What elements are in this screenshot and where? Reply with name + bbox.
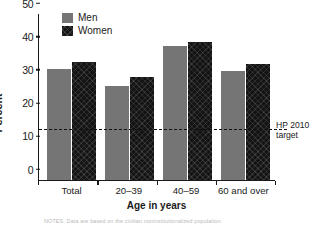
x-axis-tick-mark (97, 181, 98, 185)
y-axis-tick: 0 (28, 164, 39, 175)
x-axis-labels: Total20–3940–5960 and over (38, 186, 275, 196)
hp-2010-target-label-line2: target (276, 130, 309, 141)
x-axis-tick-mark (157, 181, 158, 185)
y-axis-tick: 50 (22, 0, 39, 9)
y-axis-tick: 20 (22, 98, 39, 109)
x-axis-label-2: 40–59 (158, 186, 215, 196)
bar-group (163, 14, 212, 180)
y-axis-tick-label: 20 (22, 98, 35, 109)
hp-2010-target-line (39, 129, 287, 130)
legend-item-women[interactable]: Women (62, 26, 112, 36)
chart-legend: MenWomen (62, 13, 112, 36)
x-axis-label-0: Total (43, 186, 100, 196)
x-axis-tick-mark (275, 181, 276, 185)
bar-men-2[interactable] (163, 46, 187, 180)
bar-group (221, 14, 270, 180)
bar-men-0[interactable] (47, 69, 71, 180)
bar-group (105, 14, 154, 180)
y-axis-tick: 10 (22, 131, 39, 142)
y-axis-tick-label: 0 (28, 164, 36, 175)
bar-men-1[interactable] (105, 86, 129, 180)
bar-group (47, 14, 96, 180)
bar-women-2[interactable] (188, 42, 212, 180)
plot-area: 01020304050 (38, 14, 275, 181)
y-axis-tick-mark (36, 3, 40, 4)
y-axis-title: Percent (0, 93, 4, 132)
y-axis-tick: 40 (22, 31, 39, 42)
y-axis-tick-label: 30 (22, 65, 35, 76)
hp-2010-target-label: HP 2010 target (276, 120, 309, 141)
bar-men-3[interactable] (221, 71, 245, 180)
x-axis-label-1: 20–39 (100, 186, 157, 196)
y-axis-tick-label: 40 (22, 31, 35, 42)
men-swatch (62, 13, 73, 23)
legend-label-women: Women (78, 26, 112, 36)
x-axis-label-3: 60 and over (215, 186, 272, 196)
legend-label-men: Men (78, 13, 97, 23)
y-axis-tick-label: 10 (22, 131, 35, 142)
women-swatch (62, 26, 73, 36)
x-axis-tick-mark (38, 181, 39, 185)
bar-groups (39, 14, 275, 180)
chart-footnote: NOTES: Data are based on the civilian no… (44, 218, 222, 224)
y-axis-tick: 30 (22, 65, 39, 76)
bar-women-3[interactable] (246, 64, 270, 180)
x-axis-title: Age in years (38, 200, 275, 211)
legend-item-men[interactable]: Men (62, 13, 112, 23)
bar-women-0[interactable] (72, 62, 96, 180)
y-axis-tick-label: 50 (22, 0, 35, 9)
x-axis-tick-mark (216, 181, 217, 185)
bar-chart: Percent 01020304050 HP 2010 target Total… (0, 0, 311, 226)
